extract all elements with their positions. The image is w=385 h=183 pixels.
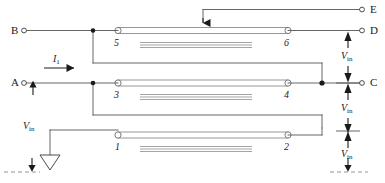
- terminal-label-c: C: [370, 77, 377, 88]
- transmission-line-bottom: [115, 132, 291, 152]
- junction-dot-c: [319, 80, 324, 85]
- port-label-2: 2: [284, 142, 289, 152]
- terminal-node-b: [22, 28, 27, 33]
- terminal-node-d: [360, 28, 365, 33]
- terminal-label-d: D: [370, 25, 378, 36]
- port-node-1: [115, 132, 121, 138]
- vin-label-right-mid: Vin: [341, 103, 353, 113]
- terminal-label-e: E: [370, 4, 377, 15]
- terminal-node-c: [360, 81, 365, 86]
- transmission-line-middle: [115, 80, 291, 100]
- junction-dot-b: [91, 28, 96, 33]
- left-datum-reference: [4, 158, 40, 172]
- terminal-label-b: B: [11, 25, 18, 36]
- port-label-3: 3: [114, 90, 119, 100]
- current-subscript: 1: [56, 58, 60, 66]
- current-label-i1: I1: [53, 54, 60, 64]
- terminal-node-e: [360, 7, 365, 12]
- transmission-line-top: [115, 27, 291, 47]
- vin-label-right-top: Vin: [341, 51, 353, 61]
- vin-label-left: Vin: [23, 121, 35, 131]
- terminal-label-a: A: [11, 77, 19, 88]
- circuit-schematic-canvas: [0, 0, 385, 183]
- port-label-6: 6: [284, 38, 289, 48]
- port-label-4: 4: [284, 90, 289, 100]
- vin-subscript-rt: in: [347, 55, 352, 63]
- ground-symbol: [40, 155, 60, 170]
- port-label-5: 5: [114, 38, 119, 48]
- terminal-node-a: [22, 81, 27, 86]
- circuit-diagram: B A E D C 5 6 3 4 1 2 I1 Vin Vin Vin Vin: [0, 0, 385, 183]
- vin-label-right-bottom: Vin: [341, 149, 353, 159]
- port-label-1: 1: [115, 142, 120, 152]
- vin-subscript-left: in: [29, 125, 34, 133]
- vin-subscript-rm: in: [347, 107, 352, 115]
- junction-dot-a: [91, 81, 96, 86]
- vin-subscript-rb: in: [347, 153, 352, 161]
